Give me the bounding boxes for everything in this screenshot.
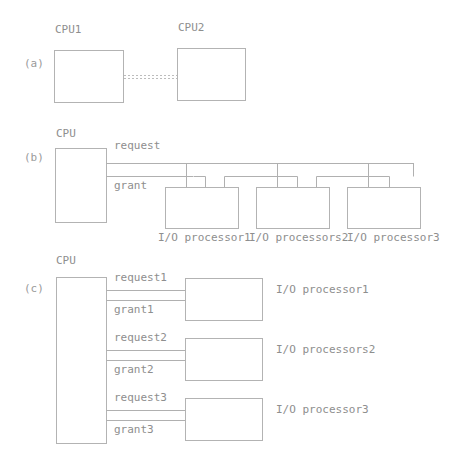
panel-c-grant-label-1: grant1 [114, 304, 154, 316]
panel-b-io-label-3: I/O processor3 [347, 232, 440, 244]
panel-c-cpu-box [57, 278, 107, 444]
panel-c-io-box-2 [186, 339, 263, 381]
panel-b-cpu-label: CPU [56, 128, 76, 140]
panel-c-cpu-label: CPU [56, 255, 76, 267]
panel-a-cpu2-box [178, 49, 246, 101]
panel-c-request-label-1: request1 [114, 272, 167, 284]
panel-a-cpu1-label: CPU1 [55, 24, 82, 36]
panel-c-io-box-3 [186, 399, 263, 441]
panel-c-id: (c) [24, 283, 44, 295]
panel-c-grant-label-3: grant3 [114, 424, 154, 436]
panel-c-io-box-1 [186, 279, 263, 321]
panel-b-request-label: request [114, 140, 160, 152]
panel-b-grant-bracket-1 [194, 177, 206, 188]
panel-b-id: (b) [24, 152, 44, 164]
panel-c-grant-label-2: grant2 [114, 364, 154, 376]
panel-b-io-box-2 [257, 188, 330, 229]
panel-c-io-label-3: I/O processor3 [276, 404, 369, 416]
panel-c-request-label-3: request3 [114, 392, 167, 404]
panel-c-io-label-2: I/O processors2 [276, 344, 375, 356]
panel-c-request-label-2: request2 [114, 332, 167, 344]
panel-b-io-label-2: I/O processors2 [249, 232, 348, 244]
panel-a-cpu1-box [55, 51, 124, 103]
panel-b-grant-bracket-2 [225, 177, 298, 188]
panel-c-io-label-1: I/O processor1 [276, 284, 369, 296]
panel-b-io-box-1 [166, 188, 239, 229]
figure-canvas: (a) CPU1 CPU2 (b) CPU request grant I/O … [0, 0, 464, 470]
panel-b-cpu-box [56, 149, 107, 223]
panel-a-id: (a) [24, 58, 44, 70]
panel-b-io-box-3 [348, 188, 421, 229]
panel-b-grant-label: grant [114, 180, 147, 192]
panel-a-cpu2-label: CPU2 [178, 22, 205, 34]
panel-b-io-label-1: I/O processor1 [158, 232, 251, 244]
panel-b-grant-bracket-3 [317, 177, 390, 188]
